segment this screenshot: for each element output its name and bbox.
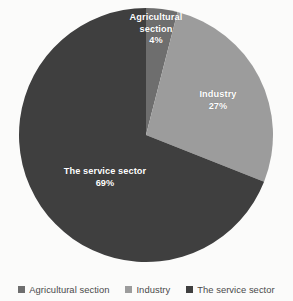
slice-label-agricultural-section-line2: section (108, 24, 204, 36)
slice-value-agricultural-section: 4% (108, 35, 204, 47)
legend-item-agricultural-section[interactable]: Agricultural section (18, 284, 109, 295)
slice-label-agricultural-section: Agricultural section 4% (108, 12, 204, 47)
slice-value-the-service-sector: 69% (46, 178, 164, 190)
legend-label: Industry (136, 284, 170, 295)
legend-swatch-icon (186, 286, 193, 293)
legend-label: The service sector (197, 284, 275, 295)
slice-value-industry: 27% (178, 101, 258, 113)
pie-chart: Agricultural section 4% Industry 27% The… (0, 0, 293, 301)
legend-swatch-icon (18, 286, 25, 293)
legend-item-the-service-sector[interactable]: The service sector (186, 284, 275, 295)
slice-label-agricultural-section-line1: Agricultural (108, 12, 204, 24)
slice-label-industry-line1: Industry (199, 89, 236, 99)
legend-label: Agricultural section (29, 284, 109, 295)
pie-plot-area: Agricultural section 4% Industry 27% The… (0, 0, 293, 270)
legend-swatch-icon (125, 286, 132, 293)
slice-label-the-service-sector: The service sector 69% (46, 166, 164, 189)
chart-legend: Agricultural sectionIndustryThe service … (0, 284, 293, 295)
legend-item-industry[interactable]: Industry (125, 284, 170, 295)
slice-label-industry: Industry 27% (178, 89, 258, 112)
slice-label-the-service-sector-line1: The service sector (64, 166, 147, 176)
